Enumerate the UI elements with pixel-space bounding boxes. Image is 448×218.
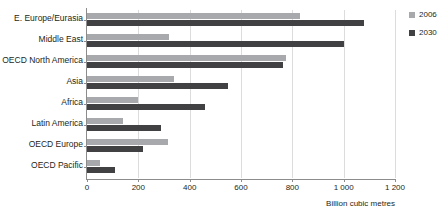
bar-2030 — [87, 62, 283, 68]
bar-2030 — [87, 125, 161, 131]
x-tick-label: 400 — [183, 183, 196, 193]
x-tick-label: 200 — [132, 183, 145, 193]
legend-item[interactable]: 2006 — [409, 10, 448, 19]
legend-label: 2006 — [419, 10, 437, 19]
x-tick-label: 0 — [85, 183, 89, 193]
category-label: OECD North America — [0, 55, 83, 65]
x-tick-mark — [241, 179, 242, 182]
x-tick-label: 600 — [234, 183, 247, 193]
category-label: Latin America — [0, 118, 83, 128]
bar-2030 — [87, 167, 115, 173]
bar-2006 — [87, 97, 138, 103]
chart-legend: 20062030 — [409, 10, 448, 46]
category-label: OECD Pacific — [0, 160, 83, 170]
plot-area — [87, 10, 395, 178]
bar-2030 — [87, 20, 364, 26]
bar-2030 — [87, 83, 228, 89]
bar-group — [87, 115, 395, 136]
x-axis-title: Billion cubic metres — [326, 199, 395, 209]
legend-item[interactable]: 2030 — [409, 28, 448, 37]
category-label: OECD Europe — [0, 139, 83, 149]
category-label: E. Europe/Eurasia — [0, 13, 83, 23]
category-axis-labels: E. Europe/EurasiaMiddle EastOECD North A… — [0, 10, 83, 178]
x-tick-mark — [190, 179, 191, 182]
bar-group — [87, 10, 395, 31]
legend-swatch-icon — [409, 30, 415, 36]
bar-2006 — [87, 139, 168, 145]
bar-group — [87, 94, 395, 115]
category-label: Africa — [0, 97, 83, 107]
x-axis-tick-labels: 02004006008001 0001 200 — [87, 181, 395, 195]
bar-group — [87, 73, 395, 94]
bar-2006 — [87, 76, 174, 82]
bar-2006 — [87, 34, 169, 40]
bar-group — [87, 31, 395, 52]
category-label: Asia — [0, 76, 83, 86]
x-tick-mark — [292, 179, 293, 182]
bar-2006 — [87, 13, 300, 19]
bar-2030 — [87, 41, 344, 47]
bar-group — [87, 52, 395, 73]
legend-label: 2030 — [419, 28, 437, 37]
bar-group — [87, 157, 395, 178]
x-tick-label: 1 000 — [334, 183, 354, 193]
bar-2006 — [87, 118, 123, 124]
x-tick-label: 800 — [286, 183, 299, 193]
category-label: Middle East — [0, 34, 83, 44]
bar-rows — [87, 10, 395, 178]
x-tick-mark — [138, 179, 139, 182]
legend-swatch-icon — [409, 12, 415, 18]
x-tick-mark — [395, 179, 396, 182]
bar-2030 — [87, 146, 143, 152]
x-tick-label: 1 200 — [385, 183, 405, 193]
bar-2006 — [87, 160, 100, 166]
bar-group — [87, 136, 395, 157]
bar-chart: E. Europe/EurasiaMiddle EastOECD North A… — [0, 0, 448, 218]
x-tick-mark — [344, 179, 345, 182]
gridline — [395, 10, 396, 178]
bar-2006 — [87, 55, 286, 61]
bar-2030 — [87, 104, 205, 110]
x-tick-mark — [87, 179, 88, 182]
